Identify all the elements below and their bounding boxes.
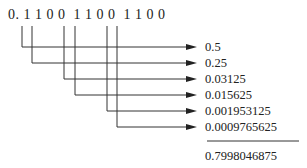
connector-term-3 [64, 26, 188, 79]
arrowhead-2 [186, 60, 197, 66]
arrowhead-3 [186, 76, 197, 82]
term-value-4: 0.015625 [205, 88, 252, 102]
term-value-5: 0.001953125 [205, 104, 271, 118]
connector-term-6 [117, 26, 188, 127]
connector-term-1 [22, 26, 188, 47]
arrowhead-1 [186, 44, 197, 50]
term-value-2: 0.25 [205, 56, 227, 70]
connector-term-4 [75, 26, 188, 95]
arrowhead-6 [186, 124, 197, 130]
binary-to-decimal-diagram: 0. 1 1 0 0 1 1 0 0 1 1 0 0 0 [0, 0, 307, 168]
connector-term-5 [107, 26, 188, 111]
sum-value: 0.7998046875 [205, 149, 277, 163]
connector-lines [0, 0, 307, 168]
connector-term-2 [32, 26, 188, 63]
arrowhead-5 [186, 108, 197, 114]
term-value-1: 0.5 [205, 40, 221, 54]
term-value-6: 0.0009765625 [205, 120, 277, 134]
term-value-3: 0.03125 [205, 72, 246, 86]
arrowhead-4 [186, 92, 197, 98]
